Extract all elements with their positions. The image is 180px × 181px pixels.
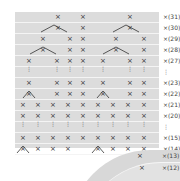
vertical-dots-icon: ⋮ bbox=[48, 122, 58, 132]
sc-symbol: × bbox=[52, 89, 62, 99]
sc-symbol: × bbox=[125, 12, 135, 22]
sc-symbol: × bbox=[78, 34, 88, 44]
sc-symbol: × bbox=[78, 23, 88, 33]
row-label: ×(12) bbox=[162, 163, 179, 173]
crochet-chart: × × × ×(31) × × × ×(30) × × × × × ×(29) … bbox=[15, 12, 159, 148]
vertical-dots-icon: ⋮ bbox=[33, 122, 43, 132]
row-label: ×(15) bbox=[163, 133, 180, 143]
sc-symbol: × bbox=[137, 163, 147, 173]
sc-symbol: × bbox=[125, 78, 135, 88]
row-label: ×(21) bbox=[163, 100, 180, 110]
sc-symbol: × bbox=[24, 78, 34, 88]
sc-symbol: × bbox=[125, 23, 135, 33]
row-label: ×(13) bbox=[162, 151, 179, 161]
vertical-dots-icon: ⋮ bbox=[139, 122, 149, 132]
row-label: ×(20) bbox=[163, 111, 180, 121]
vertical-dots-icon: ⋮ bbox=[93, 122, 103, 132]
sc-symbol: × bbox=[78, 89, 88, 99]
sc-symbol: × bbox=[93, 100, 103, 110]
sc-symbol: × bbox=[98, 78, 108, 88]
vertical-dots-icon: ⋮ bbox=[123, 122, 133, 132]
sc-symbol: × bbox=[108, 133, 118, 143]
row-label: ×(31) bbox=[163, 12, 180, 22]
sc-symbol: × bbox=[123, 133, 133, 143]
sc-symbol: × bbox=[33, 133, 43, 143]
chart-row-ellipsis: ⋮ ⋮ ⋮ ⋮ ⋮ ⋮ ⋮ ⋮ bbox=[15, 67, 159, 78]
sc-symbol: × bbox=[63, 133, 73, 143]
row-label: ⋮ bbox=[163, 122, 169, 132]
sc-symbol: × bbox=[53, 12, 63, 22]
sc-symbol: × bbox=[139, 34, 149, 44]
sc-symbol: × bbox=[18, 100, 28, 110]
sc-symbol: × bbox=[139, 133, 149, 143]
sc-symbol: × bbox=[65, 34, 75, 44]
sc-symbol: × bbox=[139, 89, 149, 99]
chart-row-22: × × × × × × × ×(22) bbox=[15, 89, 159, 100]
sc-symbol: × bbox=[111, 34, 121, 44]
sc-symbol: × bbox=[123, 100, 133, 110]
sc-symbol: × bbox=[18, 133, 28, 143]
vertical-dots-icon: ⋮ bbox=[78, 67, 88, 77]
vertical-dots-icon: ⋮ bbox=[139, 67, 149, 77]
sc-symbol: × bbox=[78, 78, 88, 88]
chart-row-ellipsis: ⋮ ⋮ ⋮ ⋮ ⋮ ⋮ ⋮ ⋮ ⋮ ⋮ bbox=[15, 122, 159, 133]
sc-symbol: × bbox=[108, 100, 118, 110]
sc-symbol: × bbox=[52, 78, 62, 88]
vertical-dots-icon: ⋮ bbox=[108, 122, 118, 132]
sc-symbol: × bbox=[111, 45, 121, 55]
sc-symbol: × bbox=[38, 34, 48, 44]
row-label: ×(28) bbox=[163, 45, 180, 55]
chart-row-21: × × × × × × × × × ×(21) bbox=[15, 100, 159, 111]
sc-symbol: × bbox=[18, 144, 28, 154]
chart-row-30: × × × ×(30) bbox=[15, 23, 159, 34]
sc-symbol: × bbox=[38, 45, 48, 55]
row-label: ×(23) bbox=[163, 78, 180, 88]
chart-row-15: × × × × × × × × × ×(15) bbox=[15, 133, 159, 144]
sc-symbol: × bbox=[63, 144, 73, 154]
chart-row-23: × × × × × × × ×(23) bbox=[15, 78, 159, 89]
vertical-dots-icon: ⋮ bbox=[63, 122, 73, 132]
sc-symbol: × bbox=[48, 144, 58, 154]
row-label: ⋮ bbox=[163, 67, 169, 77]
sc-symbol: × bbox=[78, 100, 88, 110]
sc-symbol: × bbox=[125, 89, 135, 99]
vertical-dots-icon: ⋮ bbox=[52, 67, 62, 77]
sc-symbol: × bbox=[139, 45, 149, 55]
sc-symbol: × bbox=[108, 144, 118, 154]
sc-symbol: × bbox=[33, 100, 43, 110]
chart-row-27: × × × × × × × ×(27) bbox=[15, 56, 159, 67]
sc-symbol: × bbox=[48, 133, 58, 143]
sc-symbol: × bbox=[98, 89, 108, 99]
sc-symbol: × bbox=[139, 100, 149, 110]
vertical-dots-icon: ⋮ bbox=[18, 122, 28, 132]
sc-symbol: × bbox=[93, 133, 103, 143]
row-label: ×(29) bbox=[163, 34, 180, 44]
sc-symbol: × bbox=[78, 12, 88, 22]
sc-symbol: × bbox=[33, 144, 43, 154]
vertical-dots-icon: ⋮ bbox=[24, 67, 34, 77]
vertical-dots-icon: ⋮ bbox=[125, 67, 135, 77]
sc-symbol: × bbox=[65, 89, 75, 99]
decrease-arc-icon bbox=[28, 45, 68, 55]
decrease-arc-icon bbox=[101, 45, 141, 55]
chart-row-28: × × × × × ×(28) bbox=[15, 45, 159, 56]
sc-symbol: × bbox=[78, 45, 88, 55]
sc-symbol: × bbox=[78, 133, 88, 143]
sc-symbol: × bbox=[65, 45, 75, 55]
sc-symbol: × bbox=[63, 100, 73, 110]
sc-symbol: × bbox=[48, 100, 58, 110]
sc-symbol: × bbox=[139, 78, 149, 88]
sc-symbol: × bbox=[135, 151, 145, 161]
chart-row-31: × × × ×(31) bbox=[15, 12, 159, 23]
row-label: ×(30) bbox=[163, 23, 180, 33]
row-label: ×(22) bbox=[163, 89, 180, 99]
row-label: ×(27) bbox=[163, 56, 180, 66]
vertical-dots-icon: ⋮ bbox=[78, 122, 88, 132]
sc-symbol: × bbox=[93, 144, 103, 154]
vertical-dots-icon: ⋮ bbox=[65, 67, 75, 77]
chart-row-29: × × × × × ×(29) bbox=[15, 34, 159, 45]
sc-symbol: × bbox=[53, 23, 63, 33]
sc-symbol: × bbox=[65, 78, 75, 88]
vertical-dots-icon: ⋮ bbox=[98, 67, 108, 77]
sc-symbol: × bbox=[24, 89, 34, 99]
